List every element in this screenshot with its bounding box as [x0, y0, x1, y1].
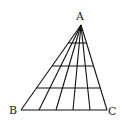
rays-from-apex	[21, 25, 107, 110]
triangle-diagram: A B C	[0, 0, 126, 128]
label-a: A	[75, 10, 85, 23]
ray-0	[21, 25, 81, 110]
ray-4	[81, 25, 90, 110]
label-b: B	[9, 104, 17, 117]
ray-5	[81, 25, 107, 110]
label-c: C	[108, 105, 116, 118]
